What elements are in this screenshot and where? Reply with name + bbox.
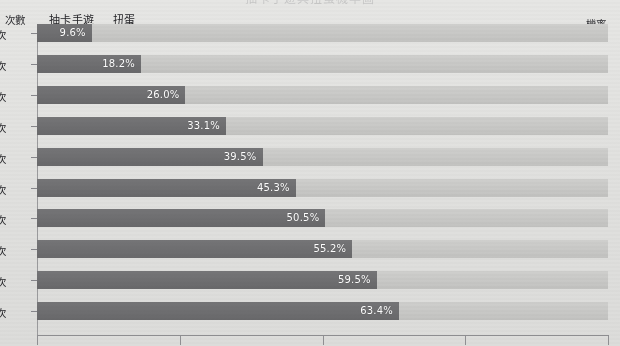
bar-segment-primary [37, 271, 377, 289]
y-axis-tick-mark [31, 218, 37, 219]
x-axis-tick-mark [465, 336, 466, 345]
bar-row: 33.1% [37, 117, 608, 135]
y-axis-tick-label: 80次 [0, 243, 6, 258]
bar-row: 18.2% [37, 55, 608, 73]
bar-value-label: 18.2% [93, 55, 135, 73]
probability-bar-chart: 抽卡手遊與扭蛋機率圖 次數 機率 抽卡手遊 扭蛋 9.6%18.2%26.0%3… [0, 0, 620, 346]
y-axis-title: 次數 [5, 12, 26, 27]
y-axis-tick-label: 90次 [0, 274, 6, 289]
bar-segment-secondary [37, 24, 608, 42]
bar-value-label: 39.5% [215, 148, 257, 166]
bar-value-label: 55.2% [304, 240, 346, 258]
bar-value-label: 26.0% [137, 86, 179, 104]
bar-row: 59.5% [37, 271, 608, 289]
bar-value-label: 50.5% [277, 209, 319, 227]
bar-value-label: 33.1% [178, 117, 220, 135]
bar-segment-primary [37, 302, 399, 320]
x-axis-tick-mark [323, 336, 324, 345]
y-axis-tick-mark [31, 280, 37, 281]
bar-value-label: 63.4% [351, 302, 393, 320]
y-axis-tick-label: 70次 [0, 212, 6, 227]
bar-row: 45.3% [37, 179, 608, 197]
x-axis-tick-mark [608, 336, 609, 345]
y-axis-tick-label: 100次 [0, 305, 6, 320]
y-axis-tick-mark [31, 64, 37, 65]
y-axis-tick-mark [31, 311, 37, 312]
bar-row: 50.5% [37, 209, 608, 227]
y-axis-tick-mark [31, 95, 37, 96]
bar-row: 26.0% [37, 86, 608, 104]
bar-row: 9.6% [37, 24, 608, 42]
y-axis-tick-label: 10次 [0, 27, 6, 42]
y-axis-tick-mark [31, 157, 37, 158]
y-axis-tick-label: 60次 [0, 182, 6, 197]
bar-row: 39.5% [37, 148, 608, 166]
y-axis-tick-label: 50次 [0, 151, 6, 166]
y-axis-tick-mark [31, 126, 37, 127]
bar-row: 55.2% [37, 240, 608, 258]
y-axis-tick-label: 30次 [0, 89, 6, 104]
y-axis-tick-mark [31, 188, 37, 189]
y-axis-tick-mark [31, 249, 37, 250]
y-axis-tick-label: 20次 [0, 58, 6, 73]
cropped-chart-title: 抽卡手遊與扭蛋機率圖 [0, 0, 620, 9]
bar-value-label: 9.6% [44, 24, 86, 42]
bar-row: 63.4% [37, 302, 608, 320]
bar-value-label: 45.3% [248, 179, 290, 197]
y-axis-tick-label: 40次 [0, 120, 6, 135]
x-axis-tick-mark [37, 336, 38, 345]
plot-area: 9.6%18.2%26.0%33.1%39.5%45.3%50.5%55.2%5… [37, 24, 608, 335]
y-axis-tick-mark [31, 33, 37, 34]
bar-value-label: 59.5% [329, 271, 371, 289]
x-axis-tick-mark [180, 336, 181, 345]
